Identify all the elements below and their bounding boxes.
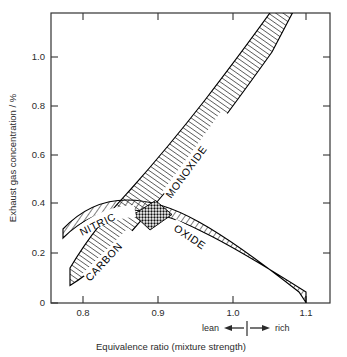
- y-tick-label-1: 0.2: [32, 247, 45, 258]
- x-tick-label-0: 0.8: [76, 307, 89, 318]
- series-carbon-monoxide: [70, 10, 294, 286]
- lean-label: lean: [202, 323, 219, 333]
- x-axis-title: Equivalence ratio (mixture strength): [96, 341, 246, 352]
- y-axis-title: Exhaust gas concentration / %: [7, 93, 18, 222]
- x-tick-labels: 0.8 0.9 1.0 1.1: [76, 307, 312, 318]
- rich-label: rich: [275, 323, 290, 333]
- y-tick-label-5: 1.0: [32, 51, 45, 62]
- y-tick-label-2: 0.4: [32, 197, 45, 208]
- carbon-monoxide-band: [70, 10, 294, 286]
- y-tick-label-3: 0.6: [32, 149, 45, 160]
- lean-arrow-head: [224, 325, 232, 331]
- chart-figure: NITRIC OXIDE CARBON MONOXIDE 0.8 0.9 1.0…: [0, 0, 347, 357]
- lean-rich-annotation: lean rich: [202, 321, 290, 336]
- y-tick-label-0: 0: [40, 297, 45, 308]
- y-tick-label-4: 0.8: [32, 100, 45, 111]
- y-tick-labels: 0 0.2 0.4 0.6 0.8 1.0: [32, 51, 45, 308]
- rich-arrow-head: [262, 325, 270, 331]
- x-tick-label-2: 1.0: [226, 307, 239, 318]
- x-tick-label-3: 1.1: [299, 307, 312, 318]
- x-tick-label-1: 0.9: [151, 307, 164, 318]
- data-bands: NITRIC OXIDE CARBON MONOXIDE: [63, 10, 306, 303]
- exhaust-gas-concentration-chart: NITRIC OXIDE CARBON MONOXIDE 0.8 0.9 1.0…: [0, 0, 347, 357]
